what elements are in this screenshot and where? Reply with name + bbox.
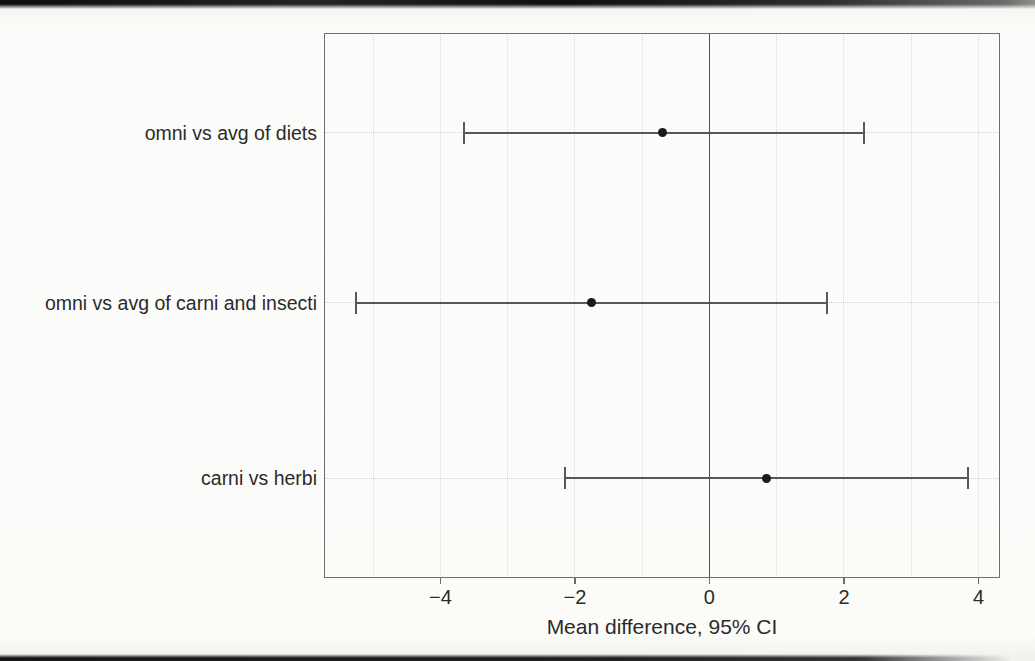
photo-edge-bottom-fade [0, 654, 1012, 661]
row-label: carni vs herbi [201, 465, 317, 491]
photo-edge-bottom [0, 654, 1012, 661]
x-tick-mark [574, 578, 576, 584]
x-tick-label: 4 [948, 586, 1008, 609]
x-tick-mark [978, 578, 980, 584]
x-tick-label: 0 [679, 586, 739, 609]
x-tick-label: 2 [814, 586, 874, 609]
x-tick-mark [440, 578, 442, 584]
x-tick-label: −2 [545, 586, 605, 609]
plot-border [324, 33, 1000, 578]
x-tick-mark [843, 578, 845, 584]
x-tick-label: −4 [410, 586, 470, 609]
forest-plot-figure: omni vs avg of dietsomni vs avg of carni… [0, 0, 1035, 661]
row-label: omni vs avg of diets [145, 120, 317, 146]
x-axis-title: Mean difference, 95% CI [462, 615, 862, 639]
plot-area: omni vs avg of dietsomni vs avg of carni… [0, 0, 1035, 661]
x-tick-mark [709, 578, 711, 584]
row-label: omni vs avg of carni and insecti [45, 290, 317, 316]
